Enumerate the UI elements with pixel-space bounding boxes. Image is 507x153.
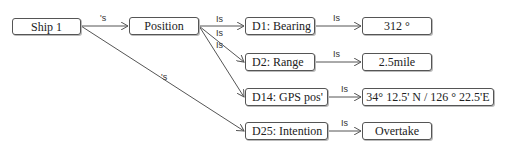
label-d1-v1: Is bbox=[333, 13, 340, 23]
label-position-d2: Is bbox=[216, 28, 223, 38]
value-intention: Overtake bbox=[362, 122, 432, 140]
label-d25-v25: Is bbox=[341, 118, 348, 128]
value-gps: 34° 12.5' N / 126 ° 22.5'E bbox=[362, 88, 494, 106]
node-position: Position bbox=[129, 17, 199, 35]
value-range: 2.5mile bbox=[362, 53, 432, 71]
value-bearing: 312 ° bbox=[362, 17, 432, 35]
label-ship-d25: 's bbox=[161, 72, 167, 82]
label-d14-v14: Is bbox=[341, 84, 348, 94]
node-d14-gps: D14: GPS pos' bbox=[245, 88, 328, 106]
node-d1-bearing: D1: Bearing bbox=[245, 17, 315, 35]
node-d2-range: D2: Range bbox=[245, 53, 315, 71]
label-ship-position: 's bbox=[100, 13, 106, 23]
label-position-d14: Is bbox=[216, 40, 223, 50]
label-position-d1: Is bbox=[216, 14, 223, 24]
label-d2-v2: Is bbox=[333, 49, 340, 59]
node-d25-intention: D25: Intention bbox=[245, 122, 328, 140]
node-ship: Ship 1 bbox=[12, 18, 81, 35]
